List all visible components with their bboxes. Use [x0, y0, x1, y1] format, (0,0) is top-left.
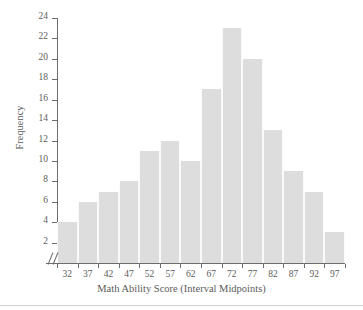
y-tick-label: 18	[39, 72, 49, 82]
bar-72	[222, 28, 243, 263]
axis-break-slash-2	[53, 252, 59, 264]
bar-47	[119, 181, 140, 263]
bar-57	[160, 141, 181, 264]
y-tick-label: 24	[39, 11, 49, 21]
bar-52	[139, 151, 160, 263]
x-axis-line	[46, 263, 345, 264]
y-axis-title: Frequency	[14, 83, 25, 173]
y-tick-label: 10	[39, 154, 49, 164]
y-tick-label: 2	[43, 236, 48, 246]
bar-77	[242, 59, 263, 263]
x-tick-mark	[119, 264, 120, 268]
histogram-figure: Frequency 24681012141618202224 323742475…	[0, 0, 363, 310]
y-tick-label: 14	[39, 113, 49, 123]
axis-break-icon	[48, 252, 62, 266]
bar-82	[263, 130, 284, 263]
bar-37	[78, 202, 99, 263]
x-tick-mark	[78, 264, 79, 268]
y-tick-label: 6	[43, 195, 48, 205]
x-tick-mark	[98, 264, 99, 268]
x-tick-mark	[304, 264, 305, 268]
y-tick-label: 20	[39, 52, 49, 62]
y-tick-label: 16	[39, 93, 49, 103]
bar-97	[324, 232, 345, 263]
bar-42	[98, 192, 119, 263]
x-axis-title: Math Ability Score (Interval Midpoints)	[0, 283, 363, 294]
x-tick-mark	[222, 264, 223, 268]
x-tick-mark	[283, 264, 284, 268]
bar-87	[283, 171, 304, 263]
x-tick-mark	[160, 264, 161, 268]
bar-62	[180, 161, 201, 263]
y-tick-label: 4	[43, 215, 48, 225]
x-tick-mark	[324, 264, 325, 268]
y-tick-label: 22	[39, 31, 49, 41]
bar-92	[304, 192, 325, 263]
x-tick-label-97: 97	[320, 269, 350, 279]
x-tick-mark	[263, 264, 264, 268]
x-tick-mark	[242, 264, 243, 268]
x-tick-mark	[180, 264, 181, 268]
bar-67	[201, 89, 222, 263]
x-tick-mark	[201, 264, 202, 268]
bars-layer	[57, 18, 345, 263]
bottom-divider	[0, 305, 363, 306]
y-tick-label: 12	[39, 134, 49, 144]
y-tick-label: 8	[43, 174, 48, 184]
x-tick-mark	[139, 264, 140, 268]
x-tick-mark	[345, 264, 346, 268]
